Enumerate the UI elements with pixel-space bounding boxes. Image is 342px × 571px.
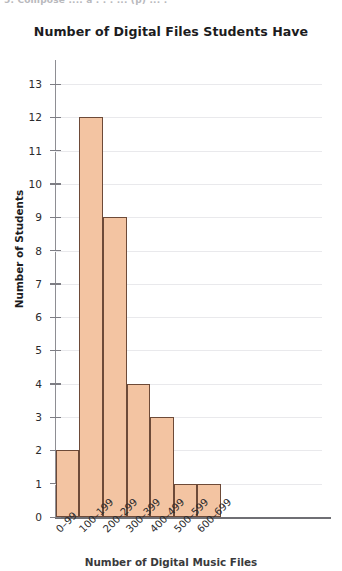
y-axis-tick-label: 7 <box>35 279 42 290</box>
x-axis-title: Number of Digital Music Files <box>0 556 342 568</box>
y-axis-tick <box>50 84 61 85</box>
y-axis-tick-label: 0 <box>35 512 42 523</box>
plot-area <box>55 60 331 518</box>
scan-clipped-header: 5. Compose .... a . . . ... (p) ... . <box>0 0 342 8</box>
y-axis-tick-label: 8 <box>35 245 42 256</box>
y-axis-tick-label: 11 <box>29 145 42 156</box>
y-axis-tick <box>50 317 61 318</box>
y-axis-tick <box>50 117 61 118</box>
y-axis-tick <box>50 183 61 184</box>
histogram-figure: 5. Compose .... a . . . ... (p) ... . Nu… <box>0 0 342 571</box>
y-axis-tick <box>50 417 61 418</box>
y-axis-tick-label: 9 <box>35 212 42 223</box>
y-axis-tick <box>50 283 61 284</box>
histogram-bar <box>174 484 198 517</box>
histogram-bar <box>150 417 174 517</box>
y-axis-tick-label: 13 <box>29 79 42 90</box>
scan-clipped-header-text: 5. Compose .... a . . . ... (p) ... . <box>0 0 342 5</box>
x-axis-spine <box>55 517 331 519</box>
gridline <box>55 84 322 85</box>
y-axis-tick-label: 4 <box>35 378 42 389</box>
y-axis-tick-label: 2 <box>35 445 42 456</box>
y-axis-tick-label: 5 <box>35 345 42 356</box>
chart-title: Number of Digital Files Students Have <box>0 24 342 39</box>
x-axis-title-clip: Number of Digital Music Files <box>0 556 342 571</box>
y-axis-tick <box>50 250 61 251</box>
histogram-bar <box>56 450 80 517</box>
histogram-bar <box>103 217 127 517</box>
y-axis-tick-label: 1 <box>35 478 42 489</box>
y-axis-tick <box>50 150 61 151</box>
y-axis-tick <box>50 217 61 218</box>
histogram-bar <box>127 384 151 517</box>
y-axis-tick-label: 12 <box>29 112 42 123</box>
y-axis-tick-label: 10 <box>29 179 42 190</box>
y-axis-tick-label: 6 <box>35 312 42 323</box>
histogram-bar <box>79 117 103 517</box>
y-axis-tick <box>50 383 61 384</box>
y-axis-tick-labels: 012345678910111213 <box>0 60 50 530</box>
y-axis-tick <box>50 350 61 351</box>
y-axis-tick-label: 3 <box>35 412 42 423</box>
histogram-bar <box>197 484 221 517</box>
